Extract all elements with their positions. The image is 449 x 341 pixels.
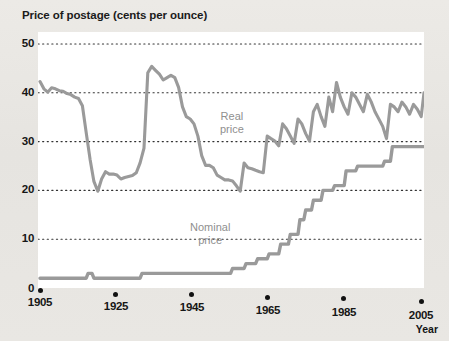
annotation-real-line2: price xyxy=(220,123,244,136)
annotation-nominal-line2: price xyxy=(190,234,230,247)
plot-area: Real price Nominal price xyxy=(38,32,424,288)
annotation-nominal-price: Nominal price xyxy=(190,221,230,247)
xtick-dot-2005 xyxy=(419,299,424,304)
series-nominal-price xyxy=(40,147,424,279)
ytick-label-0: 0 xyxy=(4,282,34,294)
chart-figure: Price of postage (cents per ounce) Real … xyxy=(0,0,449,341)
xtick-dot-1925 xyxy=(113,292,118,297)
ytick-label-30: 30 xyxy=(4,135,34,147)
xaxis-title: Year xyxy=(416,323,438,335)
xtick-label-2005: 2005 xyxy=(398,309,444,321)
annotation-real-price: Real price xyxy=(220,110,244,136)
ytick-label-40: 40 xyxy=(4,86,34,98)
xtick-dot-1945 xyxy=(189,292,194,297)
xtick-label-1925: 1925 xyxy=(93,300,139,312)
annotation-real-line1: Real xyxy=(221,110,244,122)
xtick-label-1945: 1945 xyxy=(169,301,215,313)
ytick-label-10: 10 xyxy=(4,232,34,244)
xtick-label-1905: 1905 xyxy=(17,296,63,308)
ytick-label-20: 20 xyxy=(4,183,34,195)
xtick-dot-1965 xyxy=(265,295,270,300)
xtick-dot-1905 xyxy=(38,288,43,293)
gridlines xyxy=(38,44,424,239)
xtick-label-1965: 1965 xyxy=(245,304,291,316)
xtick-dot-1985 xyxy=(341,296,346,301)
page-title: Price of postage (cents per ounce) xyxy=(22,9,207,21)
plot-svg xyxy=(38,32,424,288)
ytick-label-50: 50 xyxy=(4,37,34,49)
xtick-label-1985: 1985 xyxy=(321,306,367,318)
annotation-nominal-line1: Nominal xyxy=(190,221,230,233)
